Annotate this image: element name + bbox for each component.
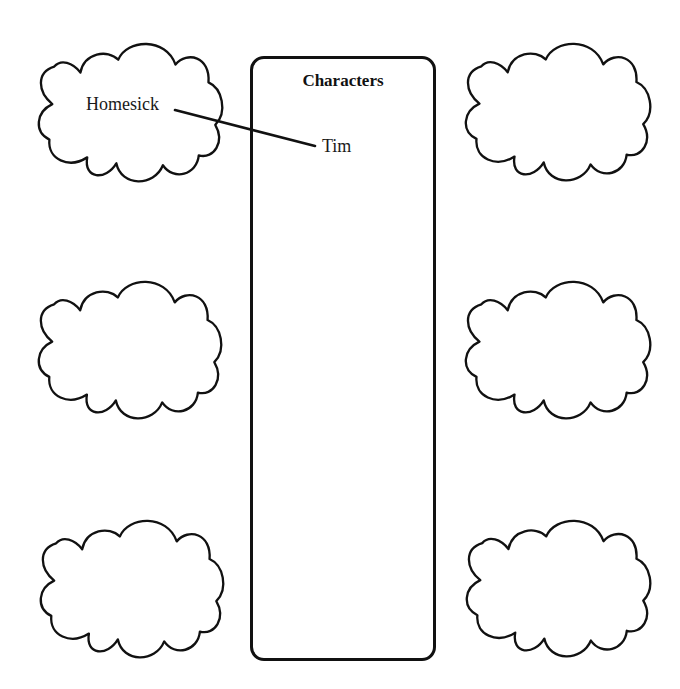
characters-title: Characters [253,71,433,91]
cloud-label-homesick: Homesick [86,94,159,115]
cloud-bottom-left [32,510,225,662]
character-web-diagram: Characters Homesick Tim [0,0,680,689]
cloud-shape-icon [457,33,652,185]
cloud-middle-left [30,271,223,423]
cloud-middle-right [457,271,652,423]
cloud-shape-icon [30,271,223,423]
cloud-shape-icon [457,271,652,423]
character-entry-tim: Tim [322,136,351,157]
cloud-bottom-right [458,510,652,661]
cloud-shape-icon [458,510,652,661]
cloud-top-right [457,33,652,185]
cloud-shape-icon [32,510,225,662]
